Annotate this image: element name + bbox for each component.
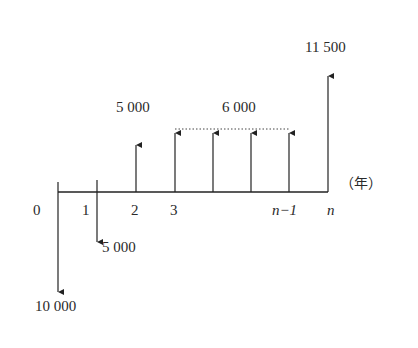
tick-label-n: n [327, 203, 335, 218]
amount-label-n: 11 500 [305, 40, 346, 55]
tick-label-1: 1 [82, 203, 90, 218]
amount-label-3-to-n-1: 6 000 [222, 100, 256, 115]
tick-label-2: 2 [131, 203, 139, 218]
tick-label-0: 0 [33, 203, 41, 218]
cash-flow-diagram [0, 0, 418, 348]
axis-unit-label: （年） [340, 176, 382, 191]
tick-label-3: 3 [170, 203, 178, 218]
amount-label-2: 5 000 [116, 100, 150, 115]
amount-label-0: 10 000 [35, 299, 76, 314]
amount-label-1: 5 000 [102, 240, 136, 255]
tick-label-n-1: n−1 [272, 203, 297, 218]
